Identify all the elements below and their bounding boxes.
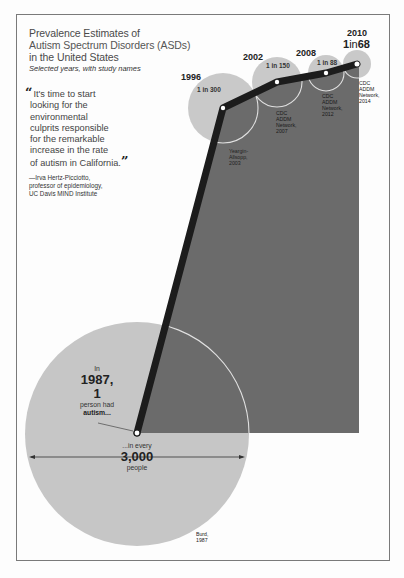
quote-line-6: increase in the rate xyxy=(25,145,135,156)
close-quote-icon: ” xyxy=(121,154,128,169)
quote-line-3: environmental xyxy=(25,112,135,123)
pull-quote: “It's time to start looking for the envi… xyxy=(25,88,135,169)
year-2008: 2008 xyxy=(296,48,316,58)
year-2002: 2002 xyxy=(243,52,263,62)
open-quote-icon: “ xyxy=(25,85,32,100)
quote-line-2: looking for the xyxy=(25,100,135,111)
label-population: ...in every 3,000 people xyxy=(102,442,172,472)
label-1987: In 1987, 1 person had autism... xyxy=(62,365,132,417)
quote-line-4: culprits responsible xyxy=(25,123,135,134)
title-line-3: in the United States xyxy=(29,51,190,63)
title-line-2: Autism Spectrum Disorders (ASDs) xyxy=(29,39,190,51)
point-2008 xyxy=(324,71,328,75)
quote-line-1: “It's time to start xyxy=(25,88,135,100)
ratio-2010: 1in68 xyxy=(343,38,370,50)
point-2010 xyxy=(355,62,360,67)
cite-2008: CDC ADDM Network, 2012 xyxy=(322,93,342,117)
cite-2010: CDC ADDM Network, 2014 xyxy=(359,80,379,104)
quote-line-5: for the remarkable xyxy=(25,134,135,145)
point-1996 xyxy=(221,106,225,110)
ratio-2008: 1 in 88 xyxy=(317,59,337,67)
title-line-1: Prevalence Estimates of xyxy=(29,27,190,39)
point-1987 xyxy=(134,430,140,436)
ratio-2002: 1 in 150 xyxy=(266,62,290,70)
cite-1996: Yeargin- Allsopp, 2003 xyxy=(229,148,248,166)
year-1996: 1996 xyxy=(181,72,201,82)
point-2002 xyxy=(275,80,279,84)
cite-1987: Burd, 1987 xyxy=(196,531,208,543)
quote-attribution: —Irva Hertz-Picciotto, professor of epid… xyxy=(29,174,102,198)
ratio-1996: 1 in 300 xyxy=(197,86,221,94)
chart-title: Prevalence Estimates of Autism Spectrum … xyxy=(29,27,190,63)
chart-subtitle: Selected years, with study names xyxy=(29,64,141,73)
quote-line-7: of autism in California.” xyxy=(25,157,135,169)
cite-2002: CDC ADDM Network, 2007 xyxy=(276,110,296,134)
year-2010: 2010 xyxy=(347,28,367,38)
